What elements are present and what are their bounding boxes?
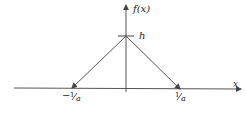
x-axis [14,88,241,89]
peak-label: h [139,30,145,41]
left-tick-label: − 1 a [62,90,81,103]
triangle-function-diagram: f(x) h x − 1 a 1 a [0,0,246,113]
y-axis-label: f(x) [132,3,150,14]
right-denominator: a [181,94,186,103]
left-slope-line [72,36,126,88]
x-axis-label: x [233,79,238,89]
right-slope-line [126,36,180,89]
right-tick-label: 1 a [175,91,186,103]
left-denominator: a [76,94,81,103]
